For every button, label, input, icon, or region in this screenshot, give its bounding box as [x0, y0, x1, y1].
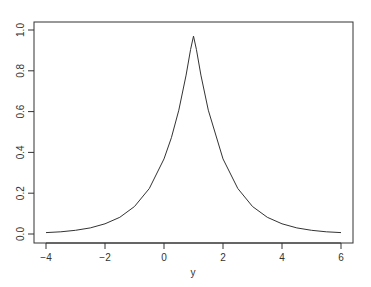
y-tick-label: 0.0 [15, 227, 26, 241]
y-tick-label: 1.0 [15, 23, 26, 37]
x-axis: −4−20246 [40, 243, 344, 263]
x-axis-title: y [191, 267, 196, 278]
x-tick-label: 4 [279, 252, 285, 263]
x-tick-label: 0 [161, 252, 167, 263]
y-tick-label: 0.6 [15, 104, 26, 118]
x-tick-label: −2 [99, 252, 111, 263]
y-tick-label: 0.8 [15, 63, 26, 77]
x-tick-label: −4 [40, 252, 52, 263]
y-tick-label: 0.2 [15, 186, 26, 200]
x-tick-label: 6 [338, 252, 344, 263]
y-axis: 0.00.20.40.60.81.0 [15, 23, 34, 241]
y-tick-label: 0.4 [15, 145, 26, 159]
x-tick-label: 2 [220, 252, 226, 263]
density-chart: −4−20246 0.00.20.40.60.81.0 y [0, 0, 371, 287]
plot-box [34, 22, 353, 243]
density-curve [46, 36, 341, 233]
